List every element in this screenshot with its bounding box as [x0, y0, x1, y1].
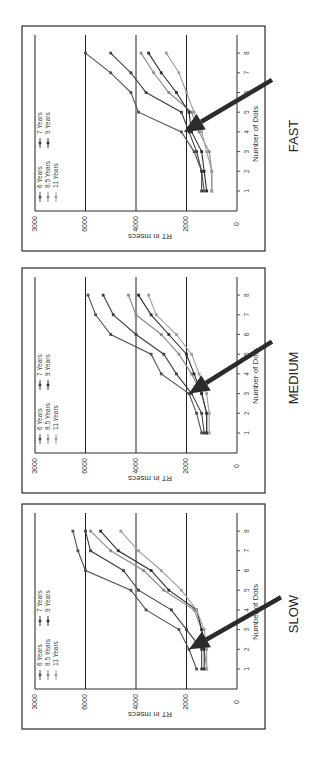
- x-tick-label: 1: [243, 189, 250, 193]
- data-point: [77, 549, 80, 552]
- data-point: [99, 530, 102, 533]
- x-tick-label: 2: [243, 169, 250, 173]
- data-point: [193, 111, 196, 114]
- data-point: [162, 353, 165, 356]
- y-tick-label: 2000: [182, 694, 189, 710]
- x-tick-label: 5: [243, 588, 250, 592]
- data-point: [180, 111, 183, 114]
- data-point: [167, 91, 170, 94]
- annotation-arrow: [206, 342, 272, 383]
- chart-panel-fast: 0200040006000300012345678Number of DotsR…: [22, 26, 301, 251]
- data-point: [142, 569, 145, 572]
- y-tick-label: 4000: [132, 458, 139, 474]
- data-point: [198, 373, 201, 376]
- x-tick-label: 3: [243, 391, 250, 395]
- x-tick-label: 8: [243, 293, 250, 297]
- data-point: [208, 432, 211, 435]
- series-line: [149, 295, 210, 433]
- data-point: [195, 609, 198, 612]
- data-point: [122, 569, 125, 572]
- data-point: [89, 530, 92, 533]
- data-point: [102, 294, 105, 297]
- data-point: [137, 111, 140, 114]
- data-point: [208, 412, 211, 415]
- data-point: [130, 71, 133, 74]
- y-tick-label: 0: [233, 222, 240, 226]
- figure-page: 0200040006000300012345678Number of DotsR…: [0, 0, 316, 761]
- data-point: [178, 71, 181, 74]
- data-point: [178, 628, 181, 631]
- annotation-arrow: [206, 597, 281, 639]
- data-point: [135, 333, 138, 336]
- data-point: [190, 373, 193, 376]
- data-point: [112, 313, 115, 316]
- y-tick-label: 2000: [182, 216, 189, 232]
- y-tick-label: 4000: [132, 216, 139, 232]
- data-point: [147, 52, 150, 55]
- chart-panel-slow: 0200040006000300012345678Number of DotsR…: [22, 504, 301, 729]
- data-point: [195, 150, 198, 153]
- data-point: [205, 412, 208, 415]
- x-tick-label: 6: [243, 332, 250, 336]
- chart-frame: [22, 26, 265, 251]
- data-point: [162, 589, 165, 592]
- y-axis-label: RT in msecs: [128, 474, 172, 483]
- data-point: [119, 530, 122, 533]
- data-point: [198, 131, 201, 134]
- legend-entry: 9 Years: [44, 590, 51, 612]
- data-point: [89, 549, 92, 552]
- data-point: [84, 530, 87, 533]
- legend-entry: 7 Years: [36, 590, 43, 612]
- data-point: [205, 392, 208, 395]
- y-axis-label: RT in msecs: [128, 710, 172, 719]
- x-tick-label: 4: [243, 608, 250, 612]
- x-tick-label: 6: [243, 568, 250, 572]
- data-point: [150, 569, 153, 572]
- legend-entry: 6 Years: [36, 166, 43, 188]
- data-point: [180, 589, 183, 592]
- data-point: [195, 412, 198, 415]
- legend-entry: 8.5 Years: [44, 638, 51, 666]
- y-tick-label: 3000: [31, 694, 38, 710]
- x-tick-label: 2: [243, 647, 250, 651]
- series-line: [111, 53, 202, 191]
- data-point: [130, 589, 133, 592]
- y-tick-label: 4000: [132, 694, 139, 710]
- x-tick-label: 4: [243, 372, 250, 376]
- series-line: [103, 295, 204, 433]
- y-tick-label: 2000: [182, 458, 189, 474]
- data-point: [180, 131, 183, 134]
- x-axis-label: Number of Dots: [251, 106, 260, 162]
- data-point: [200, 150, 203, 153]
- data-point: [137, 549, 140, 552]
- legend-entry: 11 Years: [52, 640, 59, 666]
- data-point: [147, 294, 150, 297]
- data-point: [160, 373, 163, 376]
- data-point: [188, 111, 191, 114]
- data-point: [203, 628, 206, 631]
- data-point: [109, 549, 112, 552]
- data-point: [178, 353, 181, 356]
- legend-entry: 8.5 Years: [44, 160, 51, 188]
- chart-frame: [22, 504, 265, 729]
- legend-entry: 9 Years: [44, 354, 51, 376]
- data-point: [160, 569, 163, 572]
- data-point: [205, 150, 208, 153]
- data-point: [87, 294, 90, 297]
- data-point: [137, 294, 140, 297]
- data-point: [109, 71, 112, 74]
- data-point: [167, 589, 170, 592]
- legend-entry: 6 Years: [36, 644, 43, 666]
- y-tick-label: 6000: [81, 458, 88, 474]
- panel-title: SLOW: [286, 594, 301, 633]
- data-point: [117, 549, 120, 552]
- data-point: [200, 628, 203, 631]
- legend-entry: 11 Years: [52, 162, 59, 188]
- data-point: [145, 609, 148, 612]
- y-tick-label: 3000: [31, 458, 38, 474]
- legend-entry: 8.5 Years: [44, 402, 51, 430]
- series-line: [86, 531, 202, 669]
- data-point: [84, 52, 87, 55]
- x-tick-label: 1: [243, 431, 250, 435]
- y-tick-label: 6000: [81, 694, 88, 710]
